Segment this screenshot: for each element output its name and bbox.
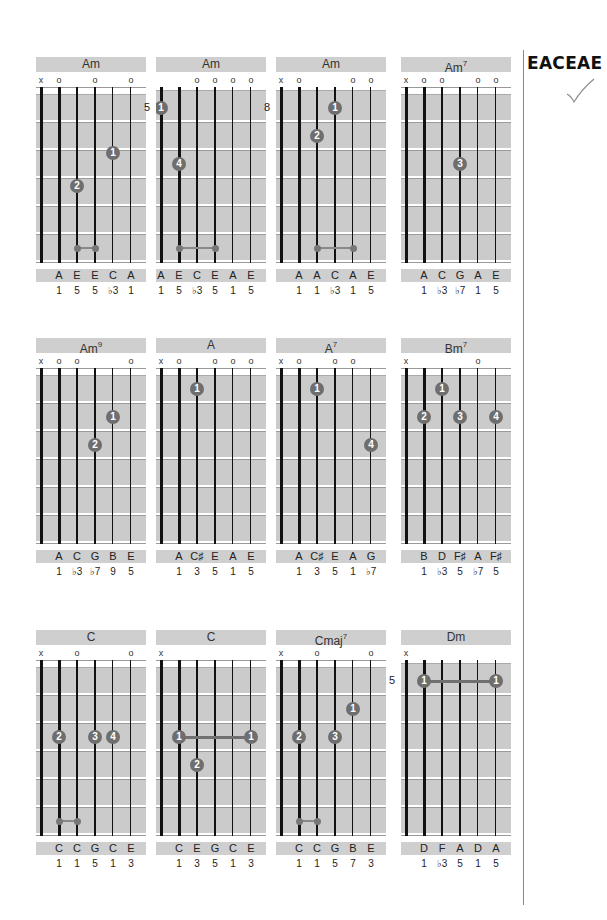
- guitar-string: [495, 87, 496, 263]
- chord-root: A: [207, 338, 215, 352]
- note-name: A: [310, 269, 324, 282]
- fretboard: 12: [36, 87, 146, 263]
- fretboard: 1: [156, 368, 266, 544]
- string-marks: xoo: [36, 647, 146, 659]
- guitar-string: [477, 660, 478, 836]
- note-name: A: [52, 550, 66, 563]
- note-name: C: [328, 269, 342, 282]
- finger-dot: 1: [156, 101, 168, 115]
- open-string-mark: o: [191, 74, 203, 86]
- finger-dot: 1: [489, 674, 503, 688]
- guitar-string: [334, 368, 336, 544]
- guitar-string: [280, 368, 283, 544]
- interval-degrees-row: 1♭3515: [401, 857, 511, 870]
- open-string-mark: o: [347, 74, 359, 86]
- open-string-mark: o: [329, 355, 341, 367]
- string-marks: x: [156, 647, 266, 659]
- guitar-string: [178, 660, 181, 836]
- note-name: C: [106, 269, 120, 282]
- chord-name: Am: [36, 57, 146, 72]
- open-string-mark: o: [71, 647, 83, 659]
- finger-dot: 3: [453, 410, 467, 424]
- interval-degree: 1: [291, 857, 307, 870]
- finger-dot: 1: [106, 410, 120, 424]
- open-string-mark: o: [71, 355, 83, 367]
- note-name: E: [70, 269, 84, 282]
- interval-degrees-row: 13513: [156, 857, 266, 870]
- open-string-mark: o: [293, 74, 305, 86]
- string-marks: xooo: [36, 355, 146, 367]
- note-name: B: [346, 842, 360, 855]
- guitar-string: [405, 87, 408, 263]
- string-marks: xoooo: [401, 74, 511, 86]
- interval-degree: ♭3: [189, 284, 205, 297]
- guitar-string: [94, 87, 96, 263]
- note-names-row: DFADA: [401, 842, 511, 855]
- barre-end-dot: [74, 818, 81, 825]
- barre-line: [178, 736, 250, 739]
- muted-string-mark: x: [275, 74, 287, 86]
- guitar-string: [196, 660, 198, 836]
- interval-degree: 5: [363, 284, 379, 297]
- interval-degree: 3: [123, 857, 139, 870]
- finger-dot: 4: [364, 438, 378, 452]
- guitar-string: [160, 368, 163, 544]
- fretboard: 123: [276, 660, 386, 836]
- finger-dot: 2: [88, 438, 102, 452]
- note-name: A: [471, 269, 485, 282]
- interval-degree: 1: [171, 857, 187, 870]
- note-names-row: CCGBE: [276, 842, 386, 855]
- guitar-string: [405, 660, 408, 836]
- start-fret-number: 5: [144, 101, 150, 113]
- interval-degree: 7: [345, 857, 361, 870]
- note-name: A: [226, 269, 240, 282]
- muted-string-mark: x: [400, 74, 412, 86]
- string-marks: xoooo: [156, 355, 266, 367]
- note-names-row: ACGBE: [36, 550, 146, 563]
- chord-root: Bm: [445, 342, 463, 356]
- interval-degree: 1: [291, 284, 307, 297]
- note-name: C: [106, 842, 120, 855]
- finger-dot: 2: [70, 179, 84, 193]
- interval-degrees-row: 11513: [36, 857, 146, 870]
- guitar-string: [352, 87, 353, 263]
- guitar-string: [370, 87, 371, 263]
- interval-degree: 5: [327, 857, 343, 870]
- guitar-string: [178, 87, 181, 263]
- note-name: A: [124, 269, 138, 282]
- guitar-string: [40, 368, 43, 544]
- open-string-mark: o: [311, 647, 323, 659]
- muted-string-mark: x: [155, 355, 167, 367]
- guitar-string: [459, 660, 461, 836]
- interval-degree: 1: [123, 284, 139, 297]
- chord-root: Am: [82, 57, 100, 71]
- interval-degree: 3: [363, 857, 379, 870]
- note-name: E: [328, 550, 342, 563]
- interval-degree: 5: [207, 857, 223, 870]
- note-name: C: [190, 269, 204, 282]
- guitar-string: [130, 660, 131, 836]
- note-name: E: [190, 842, 204, 855]
- finger-dot: 2: [310, 129, 324, 143]
- note-name: A: [226, 550, 240, 563]
- chord-name: Am9: [36, 338, 146, 353]
- barre-end-dot: [296, 818, 303, 825]
- interval-degrees-row: 13515: [156, 565, 266, 578]
- guitar-string: [423, 368, 426, 544]
- guitar-string: [352, 660, 353, 836]
- interval-degree: 1: [69, 857, 85, 870]
- finger-dot: 2: [190, 758, 204, 772]
- guitar-string: [214, 87, 216, 263]
- guitar-string: [76, 87, 78, 263]
- interval-degree: 3: [189, 565, 205, 578]
- finger-dot: 2: [417, 410, 431, 424]
- interval-degree: 5: [87, 284, 103, 297]
- guitar-string: [232, 660, 233, 836]
- note-name: A: [489, 842, 503, 855]
- guitar-string: [441, 660, 443, 836]
- guitar-string: [250, 660, 251, 836]
- guitar-string: [250, 368, 251, 544]
- guitar-string: [477, 87, 478, 263]
- interval-degree: ♭3: [327, 284, 343, 297]
- guitar-string: [334, 660, 336, 836]
